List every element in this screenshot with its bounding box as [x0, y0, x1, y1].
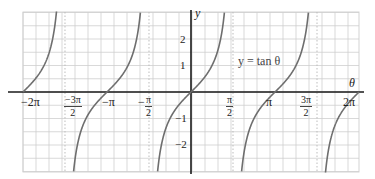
x-tick-3pi-2: 3π 2 — [300, 95, 312, 118]
x-tick-neg-pi-2: π 2 — [145, 95, 152, 118]
tan-chart — [0, 0, 375, 179]
x-tick-pi: π — [266, 96, 272, 108]
tan-branch — [23, 12, 57, 92]
x-tick-neg-pi-2-sign: − — [138, 96, 145, 108]
y-tick-1: 1 — [180, 59, 186, 71]
y-tick-neg2: −2 — [175, 138, 187, 150]
function-label: y = tan θ — [238, 54, 280, 69]
x-tick-2pi: 2π — [343, 96, 355, 108]
y-tick-neg1: −1 — [175, 112, 187, 124]
y-tick-2: 2 — [180, 33, 186, 45]
x-tick-neg-3pi-2: −3π 2 — [64, 95, 82, 118]
x-axis-label: θ — [349, 76, 355, 91]
x-tick-neg-2pi: −2π — [21, 96, 40, 108]
y-axis-label: y — [195, 6, 200, 21]
x-tick-neg-pi: −π — [102, 96, 115, 108]
x-tick-pi-2: π 2 — [226, 95, 233, 118]
